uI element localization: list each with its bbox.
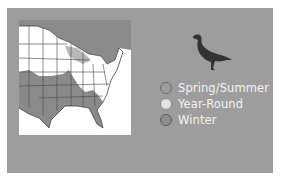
spring-summer-swatch-icon [160, 82, 172, 94]
legend-item-spring-summer: Spring/Summer [160, 80, 269, 96]
legend-item-year-round: Year-Round [160, 96, 269, 112]
winter-swatch-icon [160, 114, 172, 126]
legend: Spring/Summer Year-Round Winter [160, 80, 269, 128]
range-map-panel: Spring/Summer Year-Round Winter [7, 8, 273, 173]
legend-label: Winter [178, 113, 217, 127]
bird-silhouette-icon [187, 28, 235, 76]
range-map [19, 20, 131, 135]
range-map-graphic [19, 20, 131, 135]
legend-label: Year-Round [178, 97, 243, 111]
legend-item-winter: Winter [160, 112, 269, 128]
top-strip [0, 0, 286, 8]
legend-label: Spring/Summer [178, 81, 269, 95]
year-round-swatch-icon [160, 98, 172, 110]
